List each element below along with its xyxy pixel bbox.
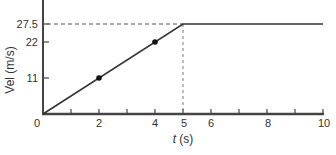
x-tick-label-8: 8 xyxy=(265,117,271,129)
x-tick-label-5: 5 xyxy=(181,117,187,129)
x-tick-label-2: 2 xyxy=(96,117,102,129)
x-tick-label-10: 10 xyxy=(318,117,330,129)
data-point-2s xyxy=(96,75,102,81)
y-tick-label-11: 11 xyxy=(27,72,38,84)
y-axis-title: Vel (m/s) xyxy=(3,46,17,93)
velocity-time-chart: 11 22 27.5 0 2 4 5 6 8 10 Vel (m/s) t (s… xyxy=(0,0,336,155)
y-tick-label-27-5: 27.5 xyxy=(17,18,38,30)
x-tick-label-4: 4 xyxy=(152,117,158,129)
data-point-4s xyxy=(152,39,158,45)
x-tick-label-6: 6 xyxy=(208,117,214,129)
y-tick-label-22: 22 xyxy=(26,36,38,48)
x-axis-title: t (s) xyxy=(173,132,194,146)
x-axis-title-unit: (s) xyxy=(176,132,193,146)
origin-label: 0 xyxy=(34,117,40,129)
